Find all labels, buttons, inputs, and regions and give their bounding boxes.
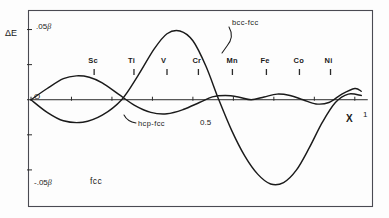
x-axis-label: X <box>346 113 353 124</box>
x-tick-label-half: 0.5 <box>200 118 211 127</box>
y-axis-label: ΔE <box>5 28 17 38</box>
y-tick-text-positive: .05 <box>36 22 47 31</box>
element-label-ti: Ti <box>128 56 135 65</box>
element-label-fe: Fe <box>260 56 269 65</box>
plot-canvas <box>0 0 389 218</box>
element-label-sc: Sc <box>88 56 98 65</box>
y-tick-text-negative: -.05 <box>34 178 48 187</box>
curve-bcc-fcc <box>31 30 361 184</box>
element-label-co: Co <box>293 56 304 65</box>
element-tick-marks <box>94 69 330 75</box>
fcc-annotation: fcc <box>90 176 102 186</box>
y-tick-label-negative: -.05β <box>34 178 52 187</box>
element-label-ni: Ni <box>325 56 333 65</box>
y-tick-label-positive: .05β <box>36 22 51 31</box>
curve-hcp-fcc <box>31 76 361 114</box>
figure-panel: ΔE .05β O -.05β 0.5 1 X bcc-fcc hcp-fcc … <box>0 0 389 218</box>
hcp-fcc-leader-line <box>124 115 136 123</box>
origin-label: O <box>34 92 40 101</box>
hcp-fcc-annotation: hcp-fcc <box>138 119 165 128</box>
bcc-fcc-annotation: bcc-fcc <box>232 18 259 27</box>
beta-symbol-negative: β <box>48 178 52 187</box>
beta-symbol-positive: β <box>47 22 51 31</box>
element-label-mn: Mn <box>226 56 237 65</box>
element-label-cr: Cr <box>192 56 201 65</box>
x-tick-label-one: 1 <box>363 110 367 119</box>
figure-border <box>29 11 373 207</box>
element-label-v: V <box>161 56 166 65</box>
bcc-fcc-leader-line <box>222 27 231 53</box>
